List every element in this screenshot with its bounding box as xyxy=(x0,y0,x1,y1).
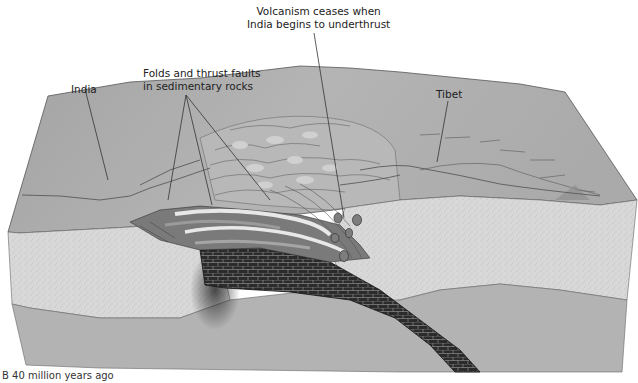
label-volcanism: Volcanism ceases when India begins to un… xyxy=(247,5,390,31)
label-india: India xyxy=(71,83,97,96)
label-volcanism-line-1: Volcanism ceases when xyxy=(247,5,390,18)
label-folds: Folds and thrust faults in sedimentary r… xyxy=(143,67,261,93)
label-tibet: Tibet xyxy=(436,88,462,101)
label-folds-line-2: in sedimentary rocks xyxy=(143,80,261,93)
label-volcanism-line-2: India begins to underthrust xyxy=(247,18,390,31)
mountain-range xyxy=(200,116,400,210)
figure-caption: B 40 million years ago xyxy=(2,370,114,381)
label-folds-line-1: Folds and thrust faults xyxy=(143,67,261,80)
